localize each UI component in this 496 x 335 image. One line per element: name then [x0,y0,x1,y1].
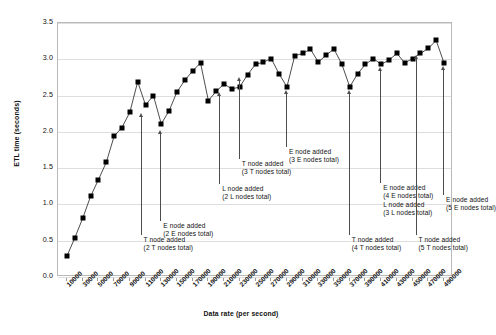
y-tick-label: 3.0 [27,54,53,62]
data-point-marker [127,110,132,115]
data-point-marker [245,72,250,77]
data-point-marker [387,58,392,63]
series-polyline [67,40,444,256]
data-point-marker [324,52,329,57]
data-point-marker [371,56,376,61]
data-point-marker [402,60,407,65]
data-point-marker [96,177,101,182]
y-tick-label: 0.0 [27,272,53,280]
data-point-marker [190,68,195,73]
data-point-marker [229,87,234,92]
data-point-marker [88,194,93,199]
data-point-marker [135,79,140,84]
y-tick-label: 2.0 [27,127,53,135]
data-point-marker [379,62,384,67]
y-tick-label: 1.0 [27,199,53,207]
data-point-marker [167,108,172,113]
data-point-marker [269,56,274,61]
data-point-marker [363,62,368,67]
plot-area [57,22,452,276]
data-point-marker [426,46,431,51]
data-point-marker [284,84,289,89]
data-point-marker [104,160,109,165]
y-tick-label: 1.5 [27,163,53,171]
data-point-marker [237,84,242,89]
data-point-marker [253,62,258,67]
x-axis-title: Data rate (per second) [0,310,482,317]
data-point-marker [394,51,399,56]
data-point-marker [347,84,352,89]
data-point-marker [159,121,164,126]
data-point-marker [308,47,313,52]
data-point-marker [65,253,70,258]
data-point-marker [410,56,415,61]
data-point-marker [206,98,211,103]
data-point-marker [198,60,203,65]
data-point-marker [222,81,227,86]
data-point-marker [143,103,148,108]
data-point-marker [214,89,219,94]
y-axis-tick-labels: 0.00.51.01.52.02.53.03.5 [25,22,53,276]
y-tick-label: 3.5 [27,18,53,26]
data-point-marker [151,93,156,98]
data-point-marker [292,53,297,58]
data-point-marker [80,216,85,221]
data-point-marker [182,78,187,83]
annotation-text-e-node-5: (5 E nodes total) [446,204,496,212]
data-point-marker [261,60,266,65]
y-axis-title: ETL time (seconds) [13,74,20,194]
data-point-marker [339,62,344,67]
y-tick-label: 0.5 [27,236,53,244]
data-point-marker [316,60,321,65]
y-tick-label: 2.5 [27,91,53,99]
data-point-marker [119,125,124,130]
data-point-marker [112,134,117,139]
data-point-marker [332,47,337,52]
data-point-marker [418,51,423,56]
data-point-marker [434,38,439,43]
data-point-marker [277,71,282,76]
data-point-marker [72,235,77,240]
data-point-marker [174,89,179,94]
data-point-marker [355,71,360,76]
data-point-marker [442,60,447,65]
data-point-marker [300,51,305,56]
